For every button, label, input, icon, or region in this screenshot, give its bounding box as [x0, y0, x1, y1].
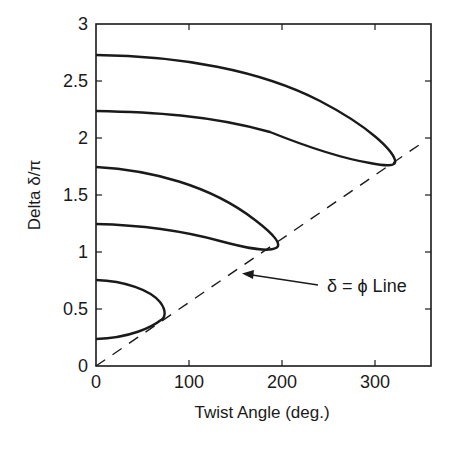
y-tick-label: 2: [78, 128, 88, 148]
y-axis-title: Delta δ/π: [25, 160, 44, 230]
y-tick-label: 1.5: [63, 185, 88, 205]
loop-curve-1: [96, 280, 165, 339]
x-axis-title: Twist Angle (deg.): [194, 403, 329, 422]
chart-svg: 0 100 200 300 0 0.5 1 1.5 2 2.5 3 Twist …: [0, 0, 454, 456]
x-tick-label: 200: [267, 372, 297, 392]
plot-frame: [96, 24, 431, 366]
y-tick-label: 0: [78, 356, 88, 376]
y-ticks: [96, 81, 431, 309]
x-tick-label: 100: [174, 372, 204, 392]
annotation-arrow: [242, 270, 318, 285]
loop-curve-3: [96, 55, 395, 165]
x-tick-label: 300: [360, 372, 390, 392]
delta-phi-dashed-line: [96, 145, 419, 366]
y-tick-label: 1: [78, 242, 88, 262]
loop-curve-2: [96, 167, 278, 250]
y-tick-label: 2.5: [63, 71, 88, 91]
y-tick-label: 3: [78, 14, 88, 34]
annotation-label: δ = ϕ Line: [327, 276, 407, 296]
y-tick-label: 0.5: [63, 299, 88, 319]
x-tick-label: 0: [91, 372, 101, 392]
